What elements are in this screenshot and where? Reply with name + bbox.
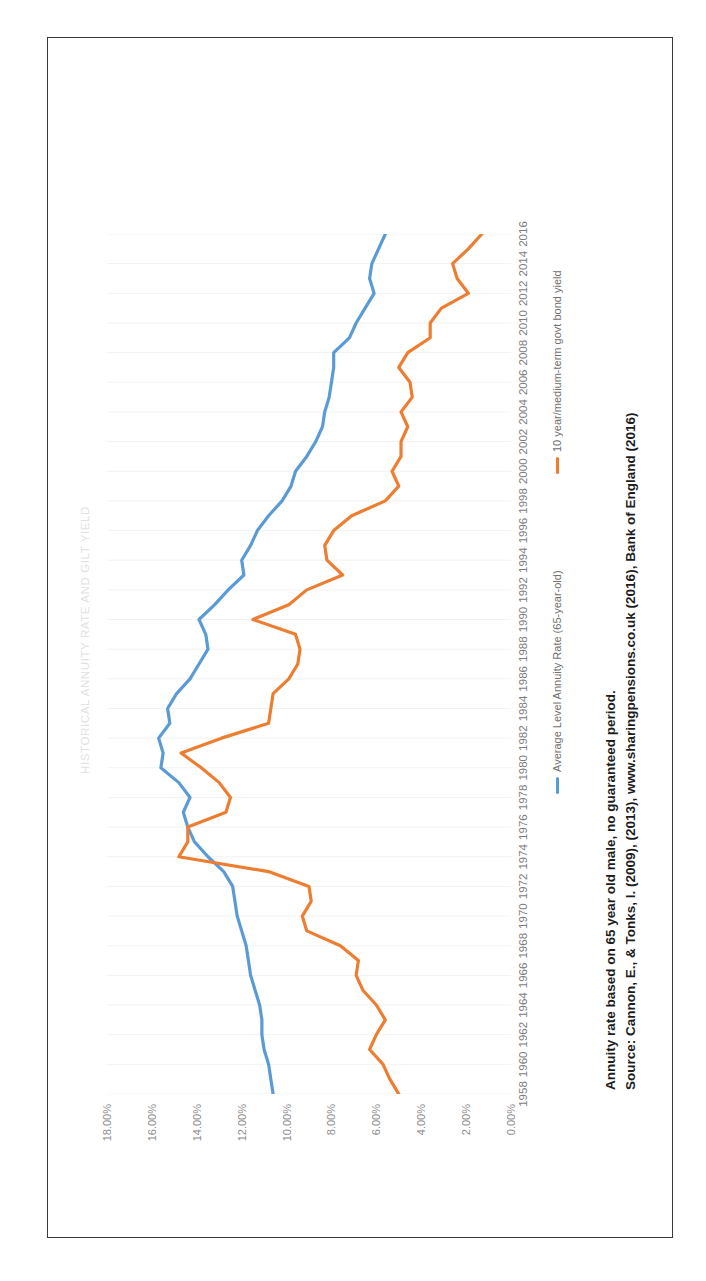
- y-tick-label: 10.00%: [281, 1104, 293, 1141]
- y-tick-label: 2.00%: [460, 1104, 472, 1135]
- x-tick-label: 1996: [517, 518, 529, 544]
- x-tick-label: 2004: [517, 399, 529, 425]
- x-tick-label: 2002: [517, 429, 529, 455]
- y-tick-label: 18.00%: [101, 1104, 113, 1141]
- gridlines: [107, 234, 511, 1094]
- series-lines: [159, 234, 482, 1094]
- x-tick-label: 1994: [517, 547, 529, 573]
- x-tick-label: 1984: [517, 696, 529, 722]
- x-tick-label: 1974: [517, 844, 529, 870]
- x-tick-label: 1982: [517, 725, 529, 751]
- legend-item[interactable]: 10 year/medium-term govt bond yield: [551, 270, 563, 474]
- x-tick-label: 1970: [517, 903, 529, 929]
- x-tick-label: 1986: [517, 666, 529, 692]
- x-tick-label: 1964: [517, 992, 529, 1018]
- y-tick-label: 16.00%: [146, 1104, 158, 1141]
- x-tick-label: 1976: [517, 814, 529, 840]
- legend-color-swatch: [556, 457, 559, 474]
- legend-label: Average Level Annuity Rate (65-year-old): [551, 570, 563, 772]
- plot-svg: [107, 234, 511, 1094]
- series-line: [179, 234, 482, 1094]
- x-tick-label: 2010: [517, 310, 529, 336]
- x-axis-year-labels: 1958196019621964196619681970197219741976…: [513, 234, 547, 1094]
- x-tick-label: 1990: [517, 607, 529, 633]
- y-tick-label: 12.00%: [236, 1104, 248, 1141]
- legend-color-swatch: [556, 777, 559, 794]
- y-tick-label: 8.00%: [325, 1104, 337, 1135]
- x-tick-label: 2008: [517, 340, 529, 366]
- x-tick-label: 2000: [517, 458, 529, 484]
- x-tick-label: 2012: [517, 281, 529, 307]
- x-tick-label: 1998: [517, 488, 529, 514]
- footnote-line-1: Annuity rate based on 65 year old male, …: [601, 190, 621, 1090]
- footnote-line-2: Source: Cannon, E., & Tonks, I. (2009), …: [621, 190, 641, 1090]
- x-tick-label: 1988: [517, 636, 529, 662]
- y-tick-label: 6.00%: [370, 1104, 382, 1135]
- y-tick-label: 0.00%: [505, 1104, 517, 1135]
- series-line: [159, 234, 386, 1094]
- x-tick-label: 1960: [517, 1052, 529, 1078]
- x-tick-label: 1966: [517, 963, 529, 989]
- y-tick-label: 14.00%: [191, 1104, 203, 1141]
- annuity-gilt-chart: HISTORICAL ANNUITY RATE AND GILT YIELD 0…: [73, 100, 633, 1180]
- footnote-block: Annuity rate based on 65 year old male, …: [601, 190, 653, 1090]
- x-tick-label: 1992: [517, 577, 529, 603]
- x-tick-label: 1962: [517, 1022, 529, 1048]
- legend-item[interactable]: Average Level Annuity Rate (65-year-old): [551, 570, 563, 794]
- x-tick-label: 1968: [517, 933, 529, 959]
- plot-area: [107, 234, 511, 1094]
- chart-title: HISTORICAL ANNUITY RATE AND GILT YIELD: [79, 100, 91, 1180]
- x-tick-label: 2016: [517, 221, 529, 247]
- x-tick-label: 2006: [517, 369, 529, 395]
- scanned-page: HISTORICAL ANNUITY RATE AND GILT YIELD 0…: [0, 0, 706, 1281]
- x-tick-label: 1972: [517, 874, 529, 900]
- legend-label: 10 year/medium-term govt bond yield: [551, 270, 563, 452]
- chart-legend: Average Level Annuity Rate (65-year-old)…: [547, 234, 591, 1094]
- x-tick-label: 1978: [517, 785, 529, 811]
- x-tick-label: 1958: [517, 1081, 529, 1107]
- y-tick-label: 4.00%: [415, 1104, 427, 1135]
- y-axis-percent-labels: 0.00%2.00%4.00%6.00%8.00%10.00%12.00%14.…: [107, 1098, 511, 1180]
- x-tick-label: 1980: [517, 755, 529, 781]
- x-tick-label: 2014: [517, 251, 529, 277]
